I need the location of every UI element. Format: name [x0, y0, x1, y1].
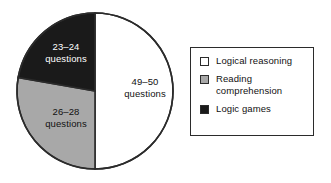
legend-label-logical-reasoning: Logical reasoning: [216, 55, 292, 67]
pie-chart: 23–24 questions 26–28 questions 49–50 qu…: [14, 4, 182, 180]
pie-slice-reading-comprehension: [17, 78, 95, 170]
pie-chart-figure: 23–24 questions 26–28 questions 49–50 qu…: [0, 0, 331, 183]
legend-label-reading-comprehension-line2: comprehension: [216, 85, 282, 96]
legend-swatch-logical-reasoning: [200, 57, 209, 66]
legend-items: Logical reasoning Reading comprehension …: [200, 55, 309, 115]
legend-swatch-reading-comprehension: [200, 75, 209, 84]
pie-slice-logic-games: [18, 13, 95, 91]
legend-item-logic-games: Logic games: [200, 103, 309, 115]
pie-slice-logical-reasoning: [95, 13, 173, 169]
chart-legend: Logical reasoning Reading comprehension …: [190, 47, 314, 136]
legend-label-logic-games: Logic games: [216, 103, 271, 115]
legend-label-reading-comprehension-line1: Reading: [216, 73, 252, 84]
legend-item-logical-reasoning: Logical reasoning: [200, 55, 309, 67]
pie-chart-svg: [14, 4, 182, 180]
legend-swatch-logic-games: [200, 105, 209, 114]
legend-item-reading-comprehension: Reading comprehension: [200, 73, 309, 97]
legend-label-reading-comprehension: Reading comprehension: [216, 73, 282, 97]
